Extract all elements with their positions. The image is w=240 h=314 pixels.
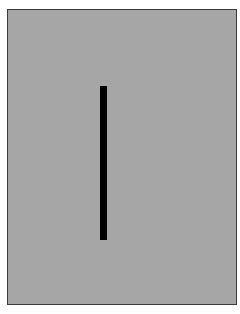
stimulus-frame (7, 9, 237, 305)
vertical-black-bar (100, 86, 107, 240)
gray-background (8, 10, 236, 304)
